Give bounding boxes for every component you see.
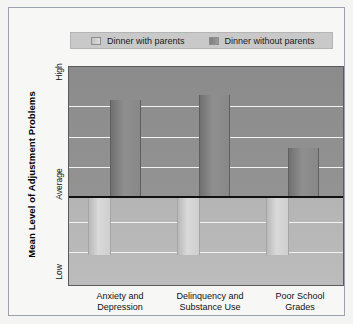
average-baseline-axis xyxy=(69,196,343,198)
y-tick-label-average: Average xyxy=(54,168,64,200)
bar-group0-with-parents[interactable] xyxy=(88,196,111,256)
y-tick-label-low: Low xyxy=(54,264,64,280)
x-tick-poor-school-grades: Poor SchoolGrades xyxy=(252,291,348,313)
plot-area xyxy=(68,66,344,286)
bar-group2-without-parents[interactable] xyxy=(288,148,319,196)
x-tick-delinquency-and-substance-use: Delinquency andSubstance Use xyxy=(162,291,258,313)
legend-swatch-icon-without-parents xyxy=(209,37,219,45)
y-tick-label-high: High xyxy=(54,63,64,80)
legend-item-dinner-without-parents[interactable]: Dinner without parents xyxy=(209,36,315,46)
x-tick-anxiety-and-depression: Anxiety andDepression xyxy=(72,291,168,313)
y-axis-title: Mean Level of Adjustment Problems xyxy=(24,64,38,284)
x-tick-line-1-1: Substance Use xyxy=(162,302,258,313)
chart-page: Dinner with parents Dinner without paren… xyxy=(0,0,353,324)
x-tick-line-2-0: Poor School xyxy=(252,291,348,302)
figure-frame: Dinner with parents Dinner without paren… xyxy=(8,7,345,316)
legend-swatch-icon-with-parents xyxy=(91,37,101,45)
x-tick-line-0-1: Depression xyxy=(72,302,168,313)
legend-label-without-parents: Dinner without parents xyxy=(225,36,315,46)
x-tick-line-1-0: Delinquency and xyxy=(162,291,258,302)
bar-group0-without-parents[interactable] xyxy=(110,100,141,196)
legend-label-with-parents: Dinner with parents xyxy=(107,36,185,46)
y-axis-title-text: Mean Level of Adjustment Problems xyxy=(26,91,37,258)
x-tick-line-2-1: Grades xyxy=(252,302,348,313)
x-tick-line-0-0: Anxiety and xyxy=(72,291,168,302)
chart-legend: Dinner with parents Dinner without paren… xyxy=(70,32,333,49)
bar-group2-with-parents[interactable] xyxy=(266,196,289,256)
bar-group1-with-parents[interactable] xyxy=(177,196,200,256)
bar-group1-without-parents[interactable] xyxy=(199,95,230,195)
legend-item-dinner-with-parents[interactable]: Dinner with parents xyxy=(91,36,185,46)
